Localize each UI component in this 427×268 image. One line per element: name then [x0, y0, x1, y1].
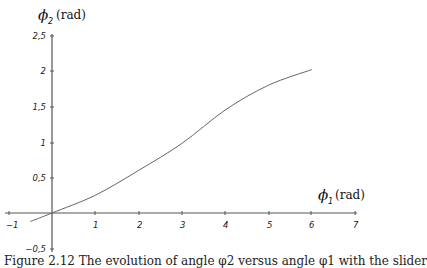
subscript: 1	[328, 197, 333, 206]
x-tick-label: 6	[309, 220, 315, 230]
unit-label: (rad)	[56, 8, 86, 22]
phi-symbol: ϕ	[318, 186, 328, 204]
x-tick-label: 7	[353, 220, 359, 230]
figure-caption: Figure 2.12 The evolution of angle φ2 ve…	[4, 254, 427, 268]
x-tick-label: 1	[93, 220, 98, 230]
y-tick-label: 1	[41, 138, 46, 148]
y-tick-label: −0,5	[25, 244, 46, 254]
y-tick-label: 2,5	[32, 31, 46, 41]
x-tick-label: 2	[137, 220, 142, 230]
x-tick-label: 4	[223, 220, 228, 230]
subscript: 2	[48, 17, 53, 26]
x-tick-label: 5	[267, 220, 272, 230]
y-tick-label: 2	[41, 66, 46, 76]
y-tick-labels: −0,5 0,5 1 1,5 2 2,5	[25, 31, 46, 254]
x-axis-label: ϕ 1 (rad)	[318, 186, 365, 206]
phi-symbol: ϕ	[38, 6, 48, 24]
x-tick-labels: −1 1 2 3 4 5 6 7	[6, 220, 359, 230]
y-tick-label: 1,5	[32, 102, 46, 112]
y-tick-label: 0,5	[32, 173, 46, 183]
x-tick-label: −1	[6, 220, 19, 230]
x-tick-label: 3	[180, 220, 185, 230]
data-curve	[30, 70, 311, 222]
y-axis-label: ϕ 2 (rad)	[38, 6, 86, 26]
unit-label: (rad)	[335, 188, 365, 202]
